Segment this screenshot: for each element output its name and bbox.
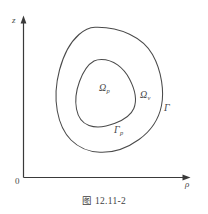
inner-boundary-subscript: p — [120, 129, 123, 136]
figure-caption: 图 12.11-2 — [0, 193, 208, 207]
inner-region-subscript: p — [107, 87, 110, 94]
figure-container: z ρ 0 Ωp Ωv Γp Γ 图 12.11-2 — [0, 0, 208, 214]
outer-region-label: Ωv — [140, 90, 150, 100]
outer-region-subscript: v — [148, 94, 151, 101]
origin-label: 0 — [15, 177, 20, 186]
outer-boundary-label: Γ — [164, 103, 170, 113]
outer-region-symbol: Ω — [140, 89, 147, 100]
diagram-canvas — [0, 0, 208, 214]
z-axis-label: z — [12, 16, 16, 25]
inner-boundary-label: Γp — [114, 125, 123, 135]
inner-region-symbol: Ω — [99, 82, 106, 93]
inner-boundary-curve — [76, 60, 135, 127]
rho-axis-label: ρ — [185, 180, 189, 189]
inner-boundary-symbol: Γ — [114, 124, 120, 135]
inner-region-label: Ωp — [99, 83, 109, 93]
z-axis-arrowhead — [21, 16, 27, 24]
